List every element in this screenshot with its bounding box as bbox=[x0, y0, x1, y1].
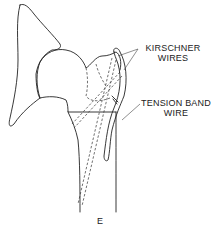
femoral-head bbox=[37, 50, 121, 99]
trochanter-dashed-2 bbox=[96, 64, 106, 86]
figure-label: E bbox=[90, 216, 110, 226]
label-tension-line2: WIRE bbox=[138, 108, 214, 118]
kirschner-wire-3 bbox=[72, 72, 120, 124]
label-tension-band-wire: TENSION BAND WIRE bbox=[138, 98, 214, 118]
leader-kirschner-1 bbox=[118, 49, 138, 56]
label-kirschner-line1: KIRSCHNER bbox=[136, 43, 210, 53]
label-kirschner-wires: KIRSCHNER WIRES bbox=[136, 43, 210, 63]
femoral-neck bbox=[40, 97, 116, 112]
kirschner-wire-1 bbox=[78, 58, 112, 204]
femur-shaft-left bbox=[68, 112, 80, 212]
pelvis-outline bbox=[9, 4, 60, 126]
label-kirschner-line2: WIRES bbox=[136, 53, 210, 63]
label-tension-line1: TENSION BAND bbox=[138, 98, 214, 108]
